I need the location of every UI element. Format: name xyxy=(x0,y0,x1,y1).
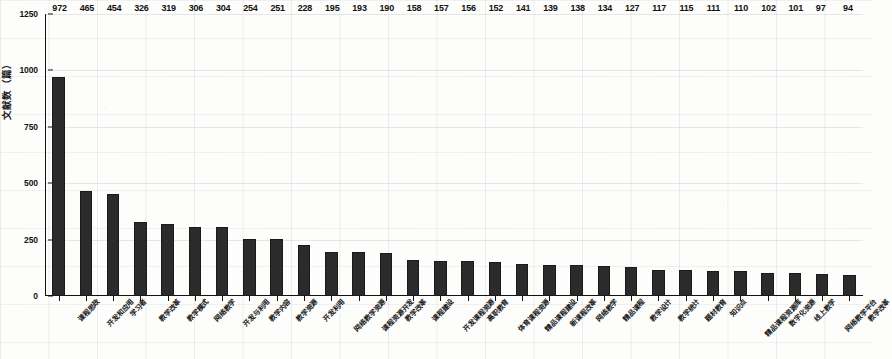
bar-value-label: 152 xyxy=(489,3,503,13)
bar-group[interactable]: 97 xyxy=(816,14,829,296)
bar[interactable]: 97 xyxy=(816,274,829,296)
x-axis-tick-label: 知识点 xyxy=(728,298,748,318)
bar-value-label: 156 xyxy=(461,3,475,13)
bar-group[interactable]: 454 xyxy=(107,14,120,296)
bar-value-label: 228 xyxy=(298,3,312,13)
bar-group[interactable]: 152 xyxy=(489,14,502,296)
bar[interactable]: 139 xyxy=(543,265,556,296)
bar-group[interactable]: 127 xyxy=(625,14,638,296)
plot-area: 9724654543263193063042542512281951931901… xyxy=(45,14,863,296)
bar[interactable]: 319 xyxy=(161,224,174,296)
bar[interactable]: 115 xyxy=(679,270,692,296)
bar-value-label: 319 xyxy=(161,3,175,13)
bar-group[interactable]: 158 xyxy=(407,14,420,296)
bar-group[interactable]: 228 xyxy=(298,14,311,296)
bar-group[interactable]: 195 xyxy=(325,14,338,296)
bar-value-label: 110 xyxy=(734,3,748,13)
bar-value-label: 251 xyxy=(270,3,284,13)
bar[interactable]: 228 xyxy=(298,245,311,296)
x-axis-tick-label: 开发与利用 xyxy=(242,298,272,328)
bar-value-label: 141 xyxy=(516,3,530,13)
bar-value-label: 127 xyxy=(625,3,639,13)
bar-value-label: 157 xyxy=(434,3,448,13)
bar-group[interactable]: 306 xyxy=(189,14,202,296)
bar-group[interactable]: 102 xyxy=(761,14,774,296)
bar-value-label: 111 xyxy=(707,3,720,13)
bar-value-label: 158 xyxy=(407,3,421,13)
bar[interactable]: 117 xyxy=(652,270,665,296)
bar-value-label: 193 xyxy=(352,3,366,13)
bar-value-label: 306 xyxy=(189,3,203,13)
y-axis-tick-label: 500 xyxy=(8,178,38,188)
bar[interactable]: 141 xyxy=(516,264,529,296)
bar[interactable]: 138 xyxy=(570,265,583,296)
x-axis-tick-label: 网络教学 xyxy=(213,298,238,323)
bar[interactable]: 158 xyxy=(407,260,420,296)
bar-group-container: 9724654543263193063042542512281951931901… xyxy=(45,14,863,296)
x-axis-label-group: 课程思政开发和应用学习者教学改革教学模式网络教学开发与利用教学内容教学资源开发利… xyxy=(45,298,863,359)
bar[interactable]: 465 xyxy=(80,191,93,296)
x-axis-tick-label: 教学改革 xyxy=(158,298,183,323)
bar-group[interactable]: 139 xyxy=(543,14,556,296)
bar-group[interactable]: 465 xyxy=(80,14,93,296)
x-axis-tick-label: 精品课程 xyxy=(622,298,647,323)
bar-group[interactable]: 101 xyxy=(789,14,802,296)
bar-group[interactable]: 156 xyxy=(461,14,474,296)
bar-group[interactable]: 115 xyxy=(679,14,692,296)
bar[interactable]: 156 xyxy=(461,261,474,296)
bar-group[interactable]: 111 xyxy=(707,14,720,296)
x-axis-tick-label: 教学统计 xyxy=(676,298,701,323)
bar-value-label: 117 xyxy=(652,3,666,13)
bar-value-label: 102 xyxy=(761,3,775,13)
bar-value-label: 134 xyxy=(598,3,612,13)
bar[interactable]: 193 xyxy=(352,252,365,296)
bar[interactable]: 152 xyxy=(489,262,502,296)
x-axis-tick-label: 题材教育 xyxy=(703,298,728,323)
bar[interactable]: 972 xyxy=(52,77,65,296)
y-axis-tick-label: 1000 xyxy=(8,65,38,75)
bar-group[interactable]: 138 xyxy=(570,14,583,296)
bar-group[interactable]: 117 xyxy=(652,14,665,296)
bar-group[interactable]: 326 xyxy=(134,14,147,296)
bar[interactable]: 304 xyxy=(216,227,229,296)
bar-group[interactable]: 94 xyxy=(843,14,856,296)
bar-value-label: 454 xyxy=(107,3,121,13)
bar[interactable]: 157 xyxy=(434,261,447,296)
x-axis-tick-label: 教学设计 xyxy=(649,298,674,323)
bar[interactable]: 306 xyxy=(189,227,202,296)
bar[interactable]: 111 xyxy=(707,271,720,296)
bar[interactable]: 251 xyxy=(270,239,283,296)
bar[interactable]: 254 xyxy=(243,239,256,296)
y-axis-tick-group: 025050075010001250 xyxy=(8,0,38,359)
bar[interactable]: 102 xyxy=(761,273,774,296)
bar-group[interactable]: 319 xyxy=(161,14,174,296)
bar-value-label: 326 xyxy=(134,3,148,13)
bar[interactable]: 134 xyxy=(598,266,611,296)
bar[interactable]: 127 xyxy=(625,267,638,296)
bar[interactable]: 190 xyxy=(380,253,393,296)
bar-value-label: 139 xyxy=(543,3,557,13)
bar[interactable]: 454 xyxy=(107,194,120,296)
bar[interactable]: 94 xyxy=(843,275,856,296)
bar[interactable]: 110 xyxy=(734,271,747,296)
bar-group[interactable]: 157 xyxy=(434,14,447,296)
y-axis-tick-label: 250 xyxy=(8,235,38,245)
bar-group[interactable]: 190 xyxy=(380,14,393,296)
y-axis-tick-label: 750 xyxy=(8,122,38,132)
bar-group[interactable]: 251 xyxy=(270,14,283,296)
bar[interactable]: 326 xyxy=(134,222,147,296)
bar-group[interactable]: 304 xyxy=(216,14,229,296)
bar-value-label: 115 xyxy=(679,3,693,13)
bar[interactable]: 195 xyxy=(325,252,338,296)
bar-group[interactable]: 141 xyxy=(516,14,529,296)
bar-group[interactable]: 193 xyxy=(352,14,365,296)
bar-value-label: 304 xyxy=(216,3,230,13)
bar-group[interactable]: 110 xyxy=(734,14,747,296)
bar-group[interactable]: 972 xyxy=(52,14,65,296)
bar-group[interactable]: 254 xyxy=(243,14,256,296)
bar-group[interactable]: 134 xyxy=(598,14,611,296)
bar[interactable]: 101 xyxy=(789,273,802,296)
x-axis-tick-label: 课程思政 xyxy=(76,298,101,323)
bar-value-label: 101 xyxy=(789,3,803,13)
